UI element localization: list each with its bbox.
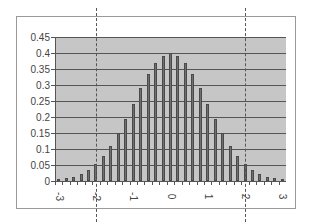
x-tick-mark bbox=[167, 181, 168, 185]
y-tick-mark bbox=[51, 69, 55, 70]
x-tick-label: -3 bbox=[53, 192, 64, 201]
bar bbox=[221, 133, 224, 181]
y-tick-label: 0.3 bbox=[36, 80, 50, 91]
x-tick-label: 1 bbox=[202, 194, 213, 200]
bar bbox=[162, 56, 165, 181]
x-tick-mark bbox=[144, 181, 145, 185]
y-tick-mark bbox=[51, 101, 55, 102]
x-tick-mark bbox=[256, 181, 257, 185]
x-tick-mark bbox=[189, 181, 190, 185]
x-tick-mark bbox=[249, 181, 250, 185]
bar bbox=[80, 174, 83, 181]
y-tick-label: 0.4 bbox=[36, 48, 50, 59]
dashed-reference-line bbox=[96, 8, 97, 222]
bar bbox=[87, 170, 90, 181]
y-tick-mark bbox=[51, 53, 55, 54]
x-tick-mark bbox=[55, 181, 56, 185]
bar bbox=[229, 146, 232, 181]
x-tick-mark bbox=[211, 181, 212, 185]
y-tick-label: 0.45 bbox=[31, 32, 50, 43]
x-tick-mark bbox=[137, 181, 138, 185]
x-tick-mark bbox=[197, 181, 198, 185]
x-tick-mark bbox=[77, 181, 78, 185]
y-tick-label: 0.1 bbox=[36, 144, 50, 155]
x-tick-mark bbox=[92, 181, 93, 185]
y-tick-mark bbox=[51, 85, 55, 86]
y-axis bbox=[55, 37, 56, 182]
y-tick-label: 0.35 bbox=[31, 64, 50, 75]
x-tick-mark bbox=[100, 181, 101, 185]
y-tick-label: 0.25 bbox=[31, 96, 50, 107]
bar bbox=[258, 174, 261, 181]
bar bbox=[184, 63, 187, 181]
bar bbox=[117, 133, 120, 181]
plot-area bbox=[55, 37, 286, 181]
y-tick-mark bbox=[51, 165, 55, 166]
x-tick-mark bbox=[234, 181, 235, 185]
dashed-reference-line bbox=[245, 8, 246, 222]
y-tick-mark bbox=[51, 149, 55, 150]
bar bbox=[176, 56, 179, 181]
x-tick-mark bbox=[182, 181, 183, 185]
x-tick-mark bbox=[62, 181, 63, 185]
x-tick-mark bbox=[204, 181, 205, 185]
x-tick-mark bbox=[264, 181, 265, 185]
x-tick-mark bbox=[152, 181, 153, 185]
bar bbox=[102, 156, 105, 181]
bar bbox=[199, 88, 202, 181]
bar bbox=[154, 63, 157, 181]
x-tick-label: 3 bbox=[277, 194, 288, 200]
gridline bbox=[55, 37, 286, 38]
x-tick-mark bbox=[226, 181, 227, 185]
x-tick-mark bbox=[271, 181, 272, 185]
bar bbox=[251, 170, 254, 181]
bar bbox=[169, 53, 172, 181]
bar bbox=[139, 88, 142, 181]
x-axis bbox=[55, 181, 286, 182]
y-tick-mark bbox=[51, 37, 55, 38]
y-tick-label: 0.2 bbox=[36, 112, 50, 123]
y-tick-mark bbox=[51, 117, 55, 118]
y-tick-mark bbox=[51, 133, 55, 134]
bar bbox=[236, 156, 239, 181]
x-tick-mark bbox=[279, 181, 280, 185]
x-tick-mark bbox=[115, 181, 116, 185]
x-tick-mark bbox=[174, 181, 175, 185]
bar bbox=[109, 146, 112, 181]
bar bbox=[132, 104, 135, 181]
x-tick-mark bbox=[70, 181, 71, 185]
y-tick-label: 0.15 bbox=[31, 128, 50, 139]
x-tick-mark bbox=[130, 181, 131, 185]
x-tick-mark bbox=[241, 181, 242, 185]
x-tick-label: 0 bbox=[165, 194, 176, 200]
y-tick-label: 0 bbox=[44, 176, 50, 187]
bar bbox=[147, 74, 150, 181]
y-tick-label: 0.05 bbox=[31, 160, 50, 171]
x-tick-label: -1 bbox=[128, 192, 139, 201]
x-tick-mark bbox=[107, 181, 108, 185]
x-tick-mark bbox=[122, 181, 123, 185]
x-tick-mark bbox=[159, 181, 160, 185]
bar bbox=[214, 119, 217, 181]
x-tick-mark bbox=[219, 181, 220, 185]
x-tick-mark bbox=[85, 181, 86, 185]
bar bbox=[191, 74, 194, 181]
bar bbox=[206, 104, 209, 181]
bar bbox=[124, 119, 127, 181]
